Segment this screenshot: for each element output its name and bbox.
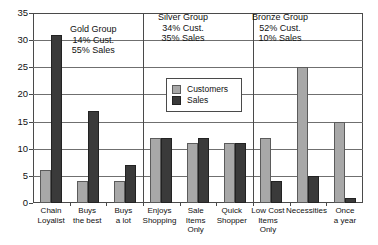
x-axis-label: Oncea year bbox=[327, 206, 363, 235]
annotation-line: 35% Sales bbox=[158, 33, 208, 44]
legend-item-sales: Sales bbox=[172, 96, 236, 105]
x-axis-label-line: Buys bbox=[105, 206, 141, 216]
bar-sales bbox=[235, 143, 246, 203]
x-axis-label-line: Once bbox=[327, 206, 363, 216]
y-axis-tick-mark bbox=[29, 40, 33, 41]
y-axis-tick-label: 10 bbox=[0, 144, 28, 154]
bar-customers bbox=[77, 181, 88, 203]
x-axis-label-line: Chain bbox=[33, 206, 69, 216]
x-axis-label: Buysa lot bbox=[105, 206, 141, 235]
y-axis-tick-label: 30 bbox=[0, 35, 28, 45]
bar-sales bbox=[88, 111, 99, 203]
x-axis-label-line: Shopping bbox=[141, 216, 177, 226]
x-axis-tick-mark bbox=[253, 203, 254, 206]
y-axis-tick-mark bbox=[29, 203, 33, 204]
y-axis-tick-label: 5 bbox=[0, 171, 28, 181]
x-axis-tick-mark bbox=[143, 203, 144, 206]
bar-customers bbox=[260, 138, 271, 203]
x-axis-label: ChainLoyalist bbox=[33, 206, 69, 235]
x-axis-tick-mark bbox=[70, 203, 71, 206]
bar-chart: 05101520253035 ChainLoyalistBuysthe best… bbox=[0, 0, 378, 245]
legend-item-customers: Customers bbox=[172, 85, 236, 94]
y-axis-tick-mark bbox=[29, 67, 33, 68]
x-axis-label-line: a lot bbox=[105, 216, 141, 226]
bar-sales bbox=[125, 165, 136, 203]
bar-customers bbox=[40, 170, 51, 203]
y-axis-tick-label: 20 bbox=[0, 90, 28, 100]
x-axis-tick-mark bbox=[106, 203, 107, 206]
x-axis-label-line: Quick bbox=[214, 206, 250, 216]
legend-swatch-sales bbox=[172, 96, 181, 105]
x-axis-label: Low CostItems Only bbox=[250, 206, 286, 235]
annotation-line: Bronze Group bbox=[252, 12, 308, 23]
annotation-line: Gold Group bbox=[70, 24, 117, 35]
annotation-line: 10% Sales bbox=[252, 33, 308, 44]
x-axis-label-line: Necessities bbox=[286, 206, 327, 216]
annotation-line: Silver Group bbox=[158, 12, 208, 23]
bar-sales bbox=[308, 176, 319, 203]
annotation-line: 52% Cust. bbox=[252, 23, 308, 34]
y-axis-tick-mark bbox=[29, 122, 33, 123]
y-axis-tick-label: 35 bbox=[0, 8, 28, 18]
x-axis-tick-mark bbox=[290, 203, 291, 206]
x-axis-label-line: Low Cost bbox=[250, 206, 286, 216]
x-axis-label-line: Shopper bbox=[214, 216, 250, 226]
bar-sales bbox=[271, 181, 282, 203]
annotation-line: 14% Cust. bbox=[70, 35, 117, 46]
y-axis-tick-mark bbox=[29, 13, 33, 14]
x-axis-tick-mark bbox=[180, 203, 181, 206]
annotation-bronze-group: Bronze Group52% Cust.10% Sales bbox=[252, 12, 308, 44]
x-axis-label: Buysthe best bbox=[69, 206, 105, 235]
x-axis-label-line: Items Only bbox=[250, 216, 286, 235]
x-axis-label: QuickShopper bbox=[214, 206, 250, 235]
bar-customers bbox=[150, 138, 161, 203]
legend-label-customers: Customers bbox=[187, 85, 228, 94]
y-axis-tick-label: 25 bbox=[0, 63, 28, 73]
annotation-line: 55% Sales bbox=[70, 45, 117, 56]
x-axis-label-line: Buys bbox=[69, 206, 105, 216]
x-axis-label: SaleItems Only bbox=[178, 206, 214, 235]
bar-group bbox=[326, 13, 363, 203]
x-axis-tick-mark bbox=[326, 203, 327, 206]
x-axis-tick-mark bbox=[216, 203, 217, 206]
x-axis-label: Necessities bbox=[286, 206, 327, 235]
bar-sales bbox=[161, 138, 172, 203]
x-axis-label-line: the best bbox=[69, 216, 105, 226]
y-axis-tick-label: 15 bbox=[0, 117, 28, 127]
bar-sales bbox=[198, 138, 209, 203]
legend-label-sales: Sales bbox=[187, 96, 208, 105]
bar-customers bbox=[334, 122, 345, 203]
annotation-silver-group: Silver Group34% Cust.35% Sales bbox=[158, 12, 208, 44]
legend: Customers Sales bbox=[166, 78, 242, 112]
annotation-line: 34% Cust. bbox=[158, 23, 208, 34]
bar-sales bbox=[51, 35, 62, 203]
bar-customers bbox=[224, 143, 235, 203]
bar-group bbox=[33, 13, 70, 203]
bar-sales bbox=[345, 198, 356, 203]
y-axis-tick-label: 0 bbox=[0, 198, 28, 208]
legend-swatch-customers bbox=[172, 85, 181, 94]
x-axis-label-line: a year bbox=[327, 216, 363, 226]
x-axis-labels: ChainLoyalistBuysthe bestBuysa lotEnjoys… bbox=[33, 206, 363, 235]
y-axis-tick-mark bbox=[29, 149, 33, 150]
x-axis-label: EnjoysShopping bbox=[141, 206, 177, 235]
bar-customers bbox=[114, 181, 125, 203]
x-axis-label-line: Sale bbox=[178, 206, 214, 216]
x-axis-label-line: Items Only bbox=[178, 216, 214, 235]
x-axis-label-line: Loyalist bbox=[33, 216, 69, 226]
bar-customers bbox=[297, 67, 308, 203]
y-axis-tick-mark bbox=[29, 176, 33, 177]
bar-customers bbox=[187, 143, 198, 203]
annotation-gold-group: Gold Group14% Cust.55% Sales bbox=[70, 24, 117, 56]
y-axis-tick-mark bbox=[29, 94, 33, 95]
x-axis-label-line: Enjoys bbox=[141, 206, 177, 216]
